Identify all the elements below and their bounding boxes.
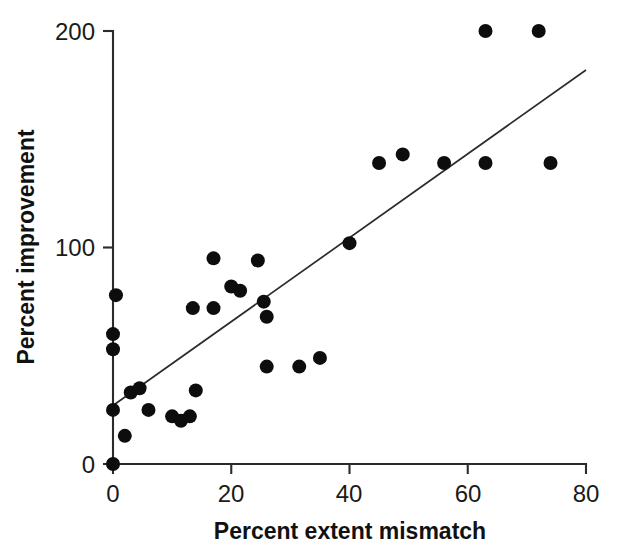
plot-canvas: 200 100 0 0 20 40 60 80 Percent extent m… xyxy=(0,0,622,549)
data-point xyxy=(343,236,357,250)
data-point xyxy=(478,24,492,38)
y-axis-title: Percent improvement xyxy=(13,129,39,365)
y-tick-label-200: 200 xyxy=(55,18,95,45)
data-point xyxy=(106,457,120,471)
data-point xyxy=(233,284,247,298)
data-point xyxy=(106,342,120,356)
data-point xyxy=(478,156,492,170)
data-point xyxy=(313,351,327,365)
data-point xyxy=(183,409,197,423)
scatter-plot-figure: 200 100 0 0 20 40 60 80 Percent extent m… xyxy=(0,0,622,549)
data-point xyxy=(106,327,120,341)
data-point xyxy=(189,383,203,397)
y-tick-group xyxy=(103,31,113,464)
data-point xyxy=(133,381,147,395)
x-tick-label-80: 80 xyxy=(573,480,600,507)
data-point xyxy=(292,360,306,374)
data-point xyxy=(260,310,274,324)
x-tick-label-60: 60 xyxy=(455,480,482,507)
data-point xyxy=(437,156,451,170)
data-point xyxy=(396,147,410,161)
data-point xyxy=(260,360,274,374)
data-point xyxy=(544,156,558,170)
y-tick-label-0: 0 xyxy=(82,451,95,478)
data-point xyxy=(106,403,120,417)
data-point xyxy=(109,288,123,302)
data-point xyxy=(186,301,200,315)
x-tick-label-20: 20 xyxy=(218,480,245,507)
x-tick-group xyxy=(113,464,586,474)
x-axis-title: Percent extent mismatch xyxy=(214,518,486,544)
x-tick-label-40: 40 xyxy=(336,480,363,507)
data-point xyxy=(207,301,221,315)
data-point xyxy=(141,403,155,417)
data-point xyxy=(207,251,221,265)
x-tick-label-0: 0 xyxy=(106,480,119,507)
data-points-group xyxy=(106,24,558,471)
y-tick-label-100: 100 xyxy=(55,234,95,261)
data-point xyxy=(251,253,265,267)
data-point xyxy=(257,295,271,309)
data-point xyxy=(118,429,132,443)
data-point xyxy=(372,156,386,170)
data-point xyxy=(532,24,546,38)
